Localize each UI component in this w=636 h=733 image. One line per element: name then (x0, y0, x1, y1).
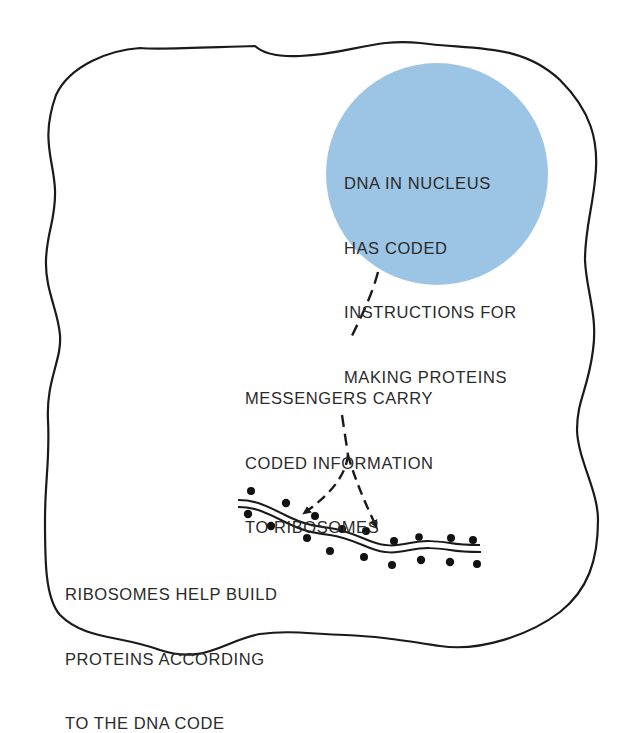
ribosome-dot (446, 558, 454, 566)
ribosome-dot (473, 560, 481, 568)
messenger-caption-line: TO RIBOSOMES (245, 517, 434, 539)
ribosome-caption-line: PROTEINS ACCORDING (65, 649, 278, 671)
nucleus-caption-line: HAS CODED (344, 238, 517, 260)
ribosome-dot (447, 534, 455, 542)
ribosome-dot (388, 561, 396, 569)
ribosome-caption-line: TO THE DNA CODE (65, 713, 278, 733)
nucleus-caption-line: INSTRUCTIONS FOR (344, 302, 517, 324)
ribosome-caption-line: RIBOSOMES HELP BUILD (65, 584, 278, 606)
nucleus-caption-line: DNA IN NUCLEUS (344, 173, 517, 195)
messenger-caption-line: CODED INFORMATION (245, 453, 434, 475)
messenger-caption-line: MESSENGERS CARRY (245, 388, 434, 410)
ribosome-dot (469, 536, 477, 544)
messenger-caption: MESSENGERS CARRY CODED INFORMATION TO RI… (245, 345, 434, 560)
ribosome-caption: RIBOSOMES HELP BUILD PROTEINS ACCORDING … (65, 541, 278, 733)
